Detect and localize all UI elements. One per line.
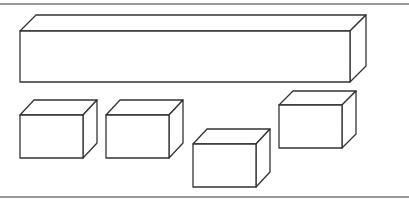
diagram-canvas [0, 0, 409, 201]
boxes-diagram [0, 0, 409, 201]
large-box [20, 15, 366, 82]
small-box-4-front-face [279, 105, 342, 148]
small-box-2-front-face [106, 115, 169, 158]
small-box-3 [193, 129, 270, 187]
large-box-front-face [20, 31, 350, 82]
small-box-1-front-face [20, 115, 83, 158]
large-box-top-face [20, 15, 366, 31]
small-box-3-front-face [193, 144, 256, 187]
small-box-4 [279, 91, 356, 148]
small-box-2 [106, 100, 183, 158]
small-box-1 [20, 100, 97, 158]
